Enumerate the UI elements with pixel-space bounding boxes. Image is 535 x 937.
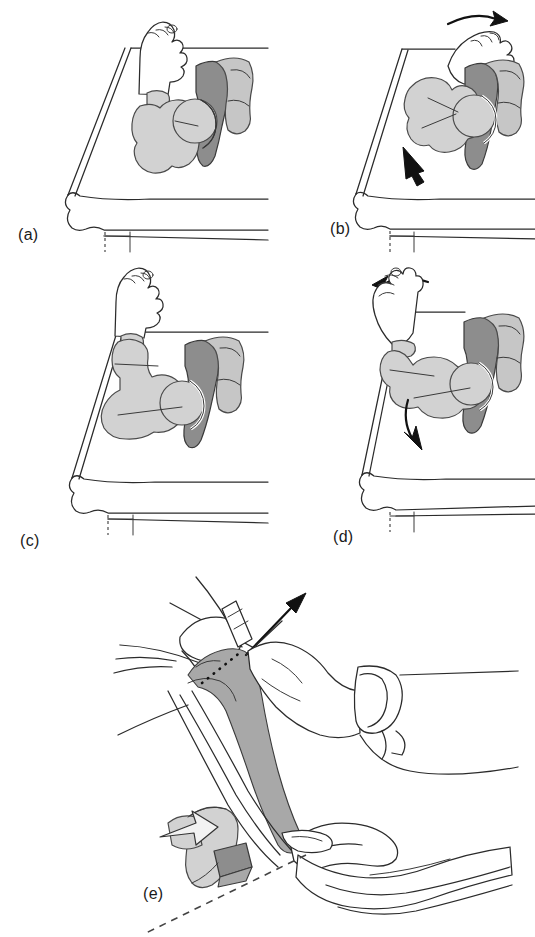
rotation-arrow-top <box>448 11 508 26</box>
examiner-upper-hand <box>248 642 518 774</box>
bone-cross-section-inset <box>160 807 252 887</box>
table-edge-ticks <box>108 515 133 535</box>
panel-a-label: (a) <box>18 226 38 244</box>
pressure-arrow-lower <box>403 147 424 186</box>
panel-d: (d) <box>330 260 535 560</box>
panel-c: (c) <box>0 260 270 560</box>
panel-b: (b) <box>330 0 535 260</box>
table-edge-ticks <box>390 512 414 532</box>
panel-e: (e) <box>110 555 535 937</box>
figure-root: (a) <box>0 0 535 937</box>
infant-foot <box>139 22 187 95</box>
panel-e-label: (e) <box>143 885 163 903</box>
infant-foot <box>373 268 423 345</box>
infant-foot <box>115 268 163 338</box>
panel-d-label: (d) <box>333 528 353 546</box>
panel-a: (a) <box>0 0 270 260</box>
panel-b-label: (b) <box>330 220 350 238</box>
panel-c-label: (c) <box>20 532 40 550</box>
table-edge-ticks <box>105 232 130 252</box>
table-edge-ticks <box>390 231 414 252</box>
